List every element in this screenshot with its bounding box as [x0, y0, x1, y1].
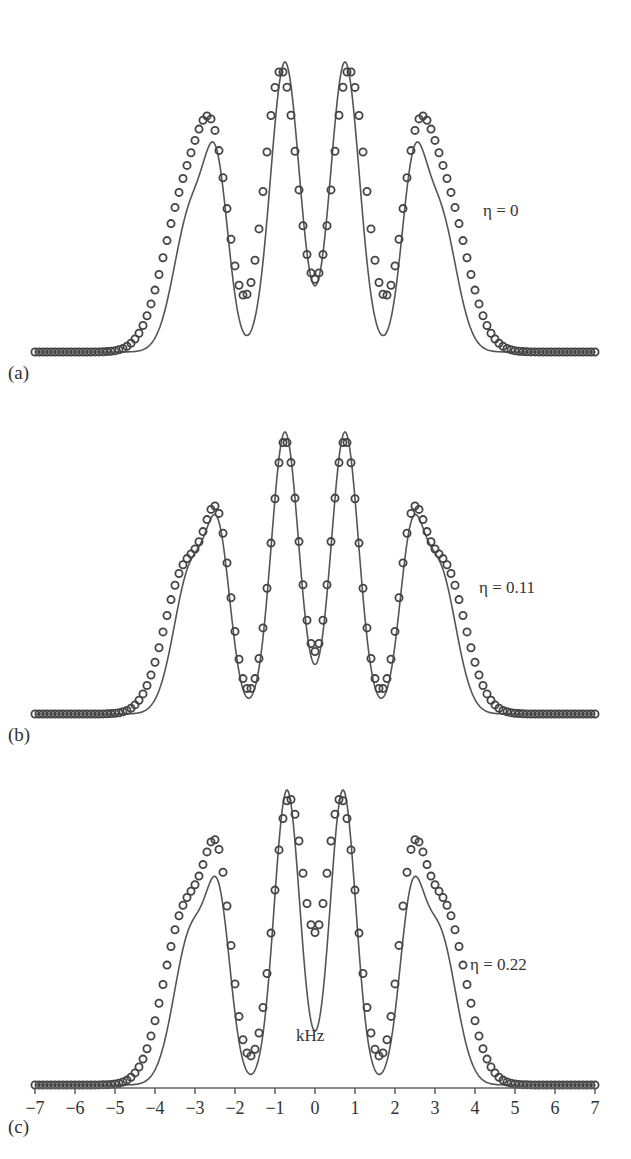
x-tick-label: 5	[495, 1098, 535, 1119]
nmr-spectra-figure	[0, 0, 631, 1159]
x-tick-label: 6	[535, 1098, 575, 1119]
x-tick-label: −5	[95, 1098, 135, 1119]
eta-label-a: η = 0	[483, 201, 518, 221]
x-tick-label: 0	[295, 1098, 335, 1119]
x-tick-label: 1	[335, 1098, 375, 1119]
eta-label-b: η = 0.11	[479, 578, 535, 598]
x-tick-label: −4	[135, 1098, 175, 1119]
panel-label-a: (a)	[8, 362, 29, 384]
eta-label-c: η = 0.22	[470, 955, 527, 975]
experimental-line	[35, 432, 595, 714]
panel-b-spectrum	[31, 432, 598, 718]
x-tick-label: 7	[575, 1098, 615, 1119]
x-tick-label: −3	[175, 1098, 215, 1119]
x-tick-label: −2	[215, 1098, 255, 1119]
x-tick-label: 2	[375, 1098, 415, 1119]
panel-label-c: (c)	[8, 1116, 29, 1138]
x-tick-label: −1	[255, 1098, 295, 1119]
x-tick-label: 3	[415, 1098, 455, 1119]
x-axis	[35, 1088, 595, 1094]
x-tick-label: 4	[455, 1098, 495, 1119]
x-tick-label: −7	[15, 1098, 55, 1119]
panel-label-b: (b)	[8, 724, 30, 746]
x-tick-label: −6	[55, 1098, 95, 1119]
x-axis-label: kHz	[296, 1026, 324, 1046]
